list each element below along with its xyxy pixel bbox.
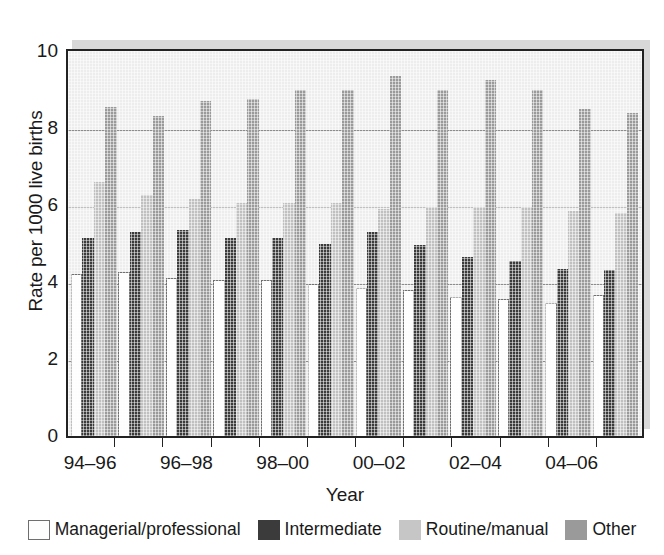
- legend-item-routine[interactable]: Routine/manual: [399, 519, 549, 540]
- x-tick-label: 04–06: [545, 452, 598, 474]
- bar-intermediate: [557, 269, 568, 436]
- bar-routine: [473, 207, 484, 436]
- bar-intermediate: [272, 238, 283, 436]
- x-tick: [307, 438, 308, 447]
- bar-other: [153, 116, 164, 436]
- x-tick: [403, 438, 404, 447]
- bar-group: [593, 51, 640, 436]
- bar-managerial: [166, 278, 177, 436]
- bar-routine: [378, 209, 389, 436]
- bar-other: [579, 109, 590, 436]
- x-tick: [162, 438, 163, 447]
- bar-routine: [568, 211, 579, 436]
- bar-managerial: [118, 272, 129, 436]
- legend-item-intermediate[interactable]: Intermediate: [258, 519, 382, 540]
- bar-routine: [94, 182, 105, 436]
- bar-group: [403, 51, 450, 436]
- bar-group: [166, 51, 213, 436]
- legend-swatch-icon: [399, 520, 421, 540]
- x-tick: [211, 438, 212, 447]
- bar-routine: [141, 195, 152, 436]
- x-tick: [500, 438, 501, 447]
- bar-managerial: [261, 280, 272, 436]
- bar-routine: [331, 203, 342, 436]
- x-tick: [114, 438, 115, 447]
- legend-label: Other: [592, 519, 636, 540]
- bar-group: [450, 51, 497, 436]
- bar-group: [308, 51, 355, 436]
- x-tick-label: 96–98: [160, 452, 213, 474]
- bar-intermediate: [319, 244, 330, 437]
- legend-swatch-icon: [258, 520, 280, 540]
- x-axis-tick-labels: 94–9696–9898–0000–0202–0404–06: [66, 452, 644, 478]
- bar-other: [200, 101, 211, 436]
- bar-other: [247, 99, 258, 436]
- bar-routine: [615, 213, 626, 436]
- bar-other: [342, 90, 353, 437]
- legend-label: Routine/manual: [426, 519, 549, 540]
- chart-figure: Rate per 1000 live births 0246810 94–969…: [0, 0, 664, 555]
- bar-other: [437, 90, 448, 437]
- x-tick: [355, 438, 356, 447]
- bar-intermediate: [82, 238, 93, 436]
- y-axis-title: Rate per 1000 live births: [25, 91, 47, 331]
- legend-item-managerial[interactable]: Managerial/professional: [28, 519, 241, 540]
- bar-routine: [283, 203, 294, 436]
- x-tick: [548, 438, 549, 447]
- bar-intermediate: [367, 232, 378, 436]
- bar-intermediate: [414, 245, 425, 436]
- bar-routine: [426, 207, 437, 436]
- bar-groups: [68, 51, 642, 436]
- bar-other: [485, 80, 496, 436]
- bar-managerial: [308, 284, 319, 436]
- plot-area: [66, 49, 644, 438]
- legend-swatch-icon: [565, 520, 587, 540]
- x-tick-label: 02–04: [449, 452, 502, 474]
- legend-item-other[interactable]: Other: [565, 519, 636, 540]
- y-tick-label: 0: [16, 425, 58, 447]
- bar-intermediate: [604, 270, 615, 436]
- bar-managerial: [403, 290, 414, 436]
- x-axis-ticks: [66, 438, 644, 447]
- bar-managerial: [545, 303, 556, 436]
- legend-swatch-icon: [28, 520, 50, 540]
- x-tick: [596, 438, 597, 447]
- bar-intermediate: [177, 230, 188, 436]
- x-axis-title: Year: [0, 484, 664, 506]
- bar-intermediate: [462, 257, 473, 436]
- bar-managerial: [498, 299, 509, 436]
- bar-managerial: [593, 295, 604, 436]
- bar-group: [118, 51, 165, 436]
- bar-routine: [236, 203, 247, 436]
- bar-group: [545, 51, 592, 436]
- legend-label: Intermediate: [285, 519, 382, 540]
- bar-group: [71, 51, 118, 436]
- x-tick: [259, 438, 260, 447]
- bar-group: [261, 51, 308, 436]
- x-tick-label: 94–96: [64, 452, 117, 474]
- bar-managerial: [71, 274, 82, 436]
- bar-group: [498, 51, 545, 436]
- bar-managerial: [213, 280, 224, 436]
- legend-label: Managerial/professional: [55, 519, 241, 540]
- bar-intermediate: [225, 238, 236, 436]
- bar-group: [356, 51, 403, 436]
- bar-other: [295, 90, 306, 437]
- bar-group: [213, 51, 260, 436]
- y-tick-label: 10: [16, 40, 58, 62]
- bar-managerial: [450, 297, 461, 436]
- y-tick-label: 2: [16, 348, 58, 370]
- chart-legend: Managerial/professionalIntermediateRouti…: [0, 519, 664, 540]
- bar-routine: [521, 207, 532, 436]
- bar-other: [390, 76, 401, 436]
- bar-routine: [189, 199, 200, 436]
- bar-intermediate: [509, 261, 520, 436]
- bar-other: [532, 90, 543, 437]
- bar-intermediate: [130, 232, 141, 436]
- bar-managerial: [356, 288, 367, 436]
- x-tick-label: 00–02: [353, 452, 406, 474]
- bar-other: [627, 113, 638, 436]
- x-tick-label: 98–00: [256, 452, 309, 474]
- x-tick: [451, 438, 452, 447]
- plot-area-wrapper: [66, 49, 644, 438]
